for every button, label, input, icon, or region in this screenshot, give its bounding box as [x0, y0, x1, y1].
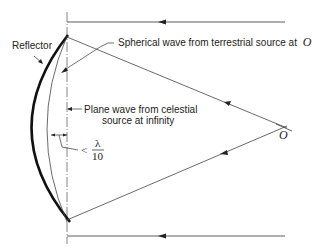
reflector-arc	[31, 35, 70, 222]
top-ray-arrow-icon	[158, 20, 166, 25]
spherical-wave-label: Spherical wave from terrestrial source a…	[118, 35, 312, 49]
tolerance-leader	[59, 135, 78, 150]
tolerance-arrow-right-icon	[63, 134, 67, 137]
tolerance-ten: 10	[92, 150, 104, 162]
plane-wave-label-line2: source at infinity	[102, 115, 174, 126]
source-o-label: O	[279, 128, 288, 142]
plane-wave-leader-arrow-icon	[67, 107, 72, 111]
ray-from-o-top-arrow-icon	[224, 101, 231, 106]
reflector-wavefront-diagram: Reflector Spherical wave from terrestria…	[0, 0, 312, 251]
bottom-ray-arrow-icon	[158, 234, 166, 239]
reflector-label: Reflector	[12, 40, 53, 51]
tolerance-lt: <	[81, 144, 87, 156]
tolerance-arrow-left-icon	[51, 134, 55, 137]
tolerance-lambda: λ	[95, 137, 101, 149]
plane-wave-label-line1: Plane wave from celestial	[84, 104, 197, 115]
